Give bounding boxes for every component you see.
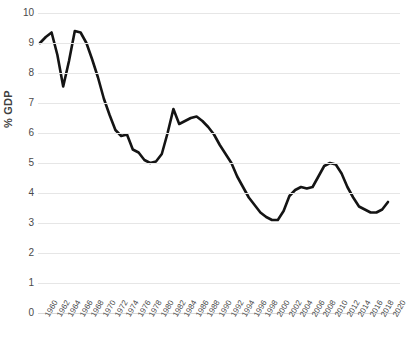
gridline-1 — [38, 283, 400, 284]
gridline-7 — [38, 103, 400, 104]
x-axis-tick-labels: 1960196219641966196819701972197419761978… — [38, 314, 408, 348]
gridline-10 — [38, 13, 400, 14]
y-tick-label-8: 8 — [6, 68, 34, 78]
y-tick-label-9: 9 — [6, 38, 34, 48]
gridline-8 — [38, 73, 400, 74]
series-line-percent-gdp — [40, 31, 388, 220]
y-axis-tick-labels: 012345678910 — [4, 0, 34, 348]
y-tick-label-5: 5 — [6, 158, 34, 168]
y-tick-label-1: 1 — [6, 278, 34, 288]
y-tick-label-7: 7 — [6, 98, 34, 108]
y-tick-label-10: 10 — [6, 8, 34, 18]
gridline-4 — [38, 193, 400, 194]
military-spending-line-chart: % GDP 012345678910 196019621964196619681… — [0, 0, 408, 348]
gridline-6 — [38, 133, 400, 134]
y-tick-label-6: 6 — [6, 128, 34, 138]
data-line-svg — [38, 0, 400, 348]
gridline-3 — [38, 223, 400, 224]
y-tick-label-4: 4 — [6, 188, 34, 198]
y-tick-label-2: 2 — [6, 248, 34, 258]
gridline-9 — [38, 43, 400, 44]
gridline-5 — [38, 163, 400, 164]
y-tick-label-0: 0 — [6, 308, 34, 318]
gridline-2 — [38, 253, 400, 254]
plot-area — [38, 0, 400, 348]
y-tick-label-3: 3 — [6, 218, 34, 228]
